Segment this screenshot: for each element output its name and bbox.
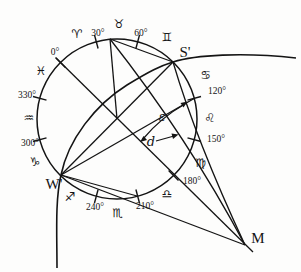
sagittarius-icon: ♐: [65, 190, 76, 204]
cancer-icon: ♋: [201, 68, 212, 82]
leo-icon: ♌: [205, 111, 216, 125]
point-M-label: M: [251, 230, 264, 246]
aquarius-icon: ♒: [24, 111, 35, 125]
angle-labels: εd: [147, 109, 166, 149]
d-arrowhead-icon: [172, 134, 179, 139]
d-label: d: [147, 134, 155, 149]
point-W-label: W': [46, 176, 63, 192]
astronomy-diagram: 0°30°60°120°150°180°210°240°300°330° ♈♉♊…: [0, 0, 301, 272]
point-S-label: S': [179, 44, 190, 60]
degree-label-120: 120°: [208, 86, 226, 96]
diagram-canvas: 0°30°60°120°150°180°210°240°300°330° ♈♉♊…: [0, 0, 301, 272]
line-T-center: [110, 39, 117, 119]
capricorn-icon: ♑: [30, 155, 41, 169]
aries-icon: ♈: [72, 27, 83, 41]
taurus-icon: ♉: [114, 17, 125, 31]
gemini-icon: ♊: [162, 30, 173, 44]
degree-label-60: 60°: [134, 28, 148, 38]
virgo-icon: ♍: [196, 156, 207, 170]
degree-label-30: 30°: [91, 28, 105, 38]
epsilon-label: ε: [159, 109, 166, 124]
degree-label-300: 300°: [21, 138, 39, 148]
degree-label-240: 240°: [86, 202, 104, 212]
scorpio-icon: ♏: [113, 206, 124, 220]
libra-icon: ♎: [162, 187, 173, 201]
degree-label-150: 150°: [207, 134, 225, 144]
degree-label-0: 0°: [51, 47, 60, 57]
degree-label-210: 210°: [136, 201, 154, 211]
degree-label-330: 330°: [18, 90, 36, 100]
degree-label-180: 180°: [183, 176, 201, 186]
d-angle-arrow: [156, 136, 174, 141]
pisces-icon: ♓: [36, 64, 47, 78]
